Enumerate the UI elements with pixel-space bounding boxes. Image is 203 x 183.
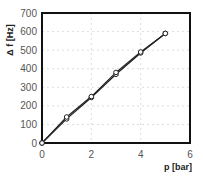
data-point-marker [138,50,143,55]
data-point-marker [64,115,69,120]
y-tick-label: 500 [20,45,37,56]
x-tick-label: 0 [39,149,45,160]
x-axis-label: p [bar] [164,162,192,172]
y-tick-label: 300 [20,82,37,93]
data-point-marker [114,70,119,75]
y-tick-label: 200 [20,100,37,111]
y-tick-label: 700 [20,8,37,19]
y-tick-label: 400 [20,63,37,74]
x-tick-labels: 0246 [39,149,193,160]
data-point-marker [40,141,45,146]
data-point-marker [89,94,94,99]
y-tick-label: 0 [31,138,37,149]
data-series [40,31,168,145]
chart: 0100200300400500600700 0246 Δ f [Hz] p [… [0,0,203,183]
x-tick-label: 2 [89,149,95,160]
x-tick-label: 4 [138,149,144,160]
y-tick-label: 600 [20,26,37,37]
y-tick-labels: 0100200300400500600700 [20,8,37,149]
x-tick-label: 6 [187,149,193,160]
y-tick-label: 100 [20,119,37,130]
data-point-marker [163,31,168,36]
y-axis-label: Δ f [Hz] [5,24,15,55]
